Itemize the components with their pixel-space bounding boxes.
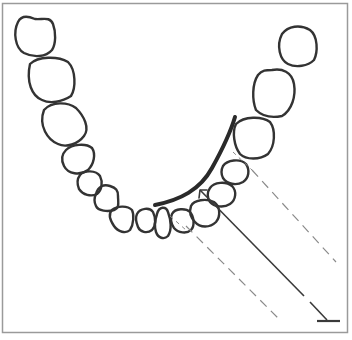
tooth-15 — [253, 70, 294, 117]
tooth-4 — [62, 145, 94, 174]
beam-edge-upper — [252, 170, 336, 262]
dental-diagram: Dental arch with X-ray beam projection — [0, 0, 352, 340]
tooth-3 — [42, 103, 86, 145]
tooth-5 — [78, 171, 102, 195]
central-ray — [200, 190, 304, 296]
tooth-7 — [110, 207, 133, 232]
tooth-13 — [222, 160, 249, 184]
teeth-group — [15, 17, 316, 238]
tooth-9 — [155, 208, 171, 238]
beam-edge-lower — [186, 226, 280, 320]
tooth-2 — [29, 58, 75, 102]
tooth-8 — [136, 209, 155, 232]
tooth-16 — [279, 27, 317, 67]
tooth-11 — [190, 200, 219, 227]
tooth-14 — [234, 118, 274, 159]
central-ray-tail — [310, 302, 327, 320]
film-curve — [155, 117, 235, 205]
diagram-svg — [0, 0, 352, 340]
frame-border — [3, 4, 348, 333]
tooth-1 — [15, 17, 55, 56]
